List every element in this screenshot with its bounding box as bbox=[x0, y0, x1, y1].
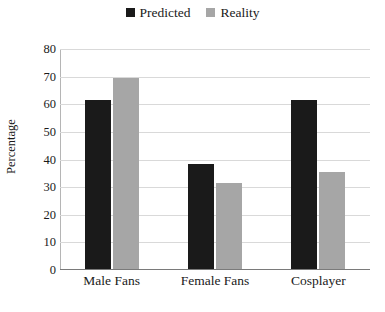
y-axis-title-text: Percentage bbox=[4, 119, 19, 174]
y-axis-title: Percentage bbox=[2, 0, 20, 312]
y-tick-label: 40 bbox=[20, 153, 56, 166]
bar-cosplayer-predicted[interactable] bbox=[291, 100, 317, 269]
chart-legend: PredictedReality bbox=[0, 6, 385, 20]
x-axis-tick-labels: Male FansFemale FansCosplayer bbox=[60, 274, 370, 298]
gridline bbox=[60, 77, 370, 78]
legend-item-predicted[interactable]: Predicted bbox=[126, 6, 191, 20]
y-tick-label: 70 bbox=[20, 70, 56, 83]
y-tick-label: 30 bbox=[20, 181, 56, 194]
legend-item-label: Predicted bbox=[140, 6, 191, 20]
y-tick-label: 0 bbox=[20, 264, 56, 277]
legend-item-reality[interactable]: Reality bbox=[206, 6, 259, 20]
y-tick-label: 50 bbox=[20, 126, 56, 139]
y-tick-label: 10 bbox=[20, 236, 56, 249]
legend-swatch-icon bbox=[206, 8, 215, 17]
gridline bbox=[60, 49, 370, 50]
bar-female-fans-reality[interactable] bbox=[216, 183, 242, 269]
legend-swatch-icon bbox=[126, 8, 135, 17]
y-tick-label: 20 bbox=[20, 209, 56, 222]
x-tick-label: Cosplayer bbox=[291, 274, 346, 288]
y-axis-tick-labels: 01020304050607080 bbox=[20, 0, 56, 312]
y-tick-label: 80 bbox=[20, 43, 56, 56]
bar-cosplayer-reality[interactable] bbox=[319, 172, 345, 269]
bar-male-fans-reality[interactable] bbox=[113, 78, 139, 269]
x-tick-label: Male Fans bbox=[83, 274, 140, 288]
legend-item-label: Reality bbox=[220, 6, 259, 20]
plot-area bbox=[60, 49, 370, 270]
bar-chart: PredictedReality Percentage 010203040506… bbox=[0, 0, 385, 312]
y-tick-label: 60 bbox=[20, 98, 56, 111]
x-tick-label: Female Fans bbox=[181, 274, 250, 288]
bar-male-fans-predicted[interactable] bbox=[85, 100, 111, 269]
x-axis-line bbox=[60, 269, 370, 270]
bar-female-fans-predicted[interactable] bbox=[188, 164, 214, 269]
